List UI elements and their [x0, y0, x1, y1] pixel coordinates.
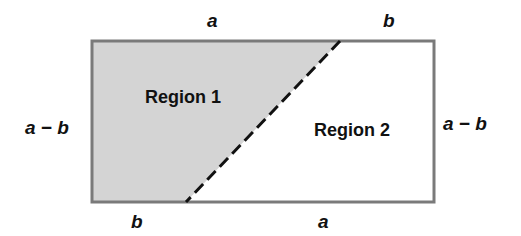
label-top-a: a [207, 10, 218, 32]
label-bottom-a: a [318, 211, 329, 233]
label-left-a-minus-b: a − b [25, 117, 69, 139]
label-bottom-b: b [131, 211, 143, 233]
region-1-label: Region 1 [145, 87, 221, 108]
region-2-label: Region 2 [314, 120, 390, 141]
label-right-a-minus-b: a − b [443, 113, 487, 135]
label-top-b: b [383, 10, 395, 32]
